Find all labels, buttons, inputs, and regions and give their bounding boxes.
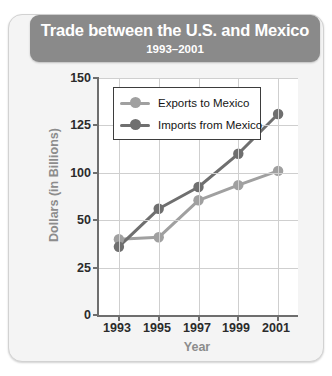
- y-axis-tick-label: 0: [47, 309, 91, 322]
- y-axis-tick: [93, 314, 99, 316]
- legend-item: Exports to Mexico: [120, 94, 256, 114]
- y-axis-tick: [93, 267, 99, 269]
- legend-item: Imports from Mexico: [120, 116, 256, 136]
- y-axis-tick-label: 50: [47, 214, 91, 227]
- y-axis-tick: [93, 219, 99, 221]
- x-axis-tick-labels: 19931995199719992001: [97, 318, 297, 338]
- y-axis-tick-label: 25: [47, 262, 91, 275]
- x-axis-tick-label: 2001: [253, 322, 299, 335]
- chart-subtitle: 1993–2001: [30, 39, 320, 56]
- page-title: Trade between the U.S. and Mexico: [30, 15, 320, 39]
- legend-marker-icon: [130, 97, 141, 108]
- x-axis-title: Year: [97, 340, 297, 354]
- y-axis-tick-label: 150: [47, 72, 91, 85]
- y-axis-tick: [93, 124, 99, 126]
- y-axis-tick-label: 100: [47, 167, 91, 180]
- legend-item-label: Exports to Mexico: [158, 96, 249, 111]
- chart-title-banner: Trade between the U.S. and Mexico 1993–2…: [30, 15, 320, 62]
- chart-legend: Exports to MexicoImports from Mexico: [113, 87, 261, 140]
- x-gridline: [278, 78, 279, 315]
- y-axis-tick: [93, 77, 99, 79]
- legend-item-label: Imports from Mexico: [158, 118, 262, 133]
- y-axis-tick-labels: 15012510050250: [47, 78, 91, 315]
- legend-marker-icon: [130, 119, 141, 130]
- chart-card: Trade between the U.S. and Mexico 1993–2…: [8, 14, 324, 362]
- y-axis-tick-label: 125: [47, 119, 91, 132]
- y-axis-tick: [93, 172, 99, 174]
